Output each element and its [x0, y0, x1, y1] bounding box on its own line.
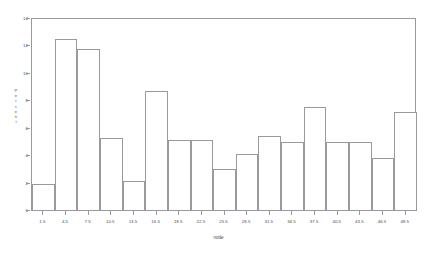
- plot-area: [31, 18, 416, 211]
- x-axis-tick-mark: [269, 211, 270, 215]
- x-axis-tick-label: 25.5: [219, 219, 228, 224]
- y-axis-tick-mark: [26, 210, 30, 211]
- y-axis-tick-mark: [26, 100, 30, 101]
- bar: [168, 140, 191, 211]
- bar: [55, 39, 78, 211]
- bar: [304, 107, 327, 211]
- x-axis-tick-mark: [405, 211, 406, 215]
- x-axis-tick-label: 43.5: [355, 219, 364, 224]
- bar: [236, 154, 259, 211]
- bar: [281, 142, 304, 211]
- x-axis-tick-mark: [156, 211, 157, 215]
- x-axis-tick-mark: [337, 211, 338, 215]
- y-axis-tick-labels: 02468101214: [14, 0, 28, 254]
- y-axis-tick-mark: [26, 155, 30, 156]
- x-axis-tick-label: 49.5: [400, 219, 409, 224]
- x-axis-tick-label: 16.5: [151, 219, 160, 224]
- x-axis-tick-label: 1.5: [39, 219, 45, 224]
- x-axis-tick-label: 19.5: [174, 219, 183, 224]
- x-axis-tick-mark: [201, 211, 202, 215]
- x-axis-tick-mark: [88, 211, 89, 215]
- x-axis-tick-mark: [359, 211, 360, 215]
- histogram-chart: Percent 02468101214 1.54.57.510.513.516.…: [0, 0, 437, 254]
- bar: [123, 181, 146, 211]
- bar: [349, 142, 372, 211]
- y-axis-tick-mark: [26, 128, 30, 129]
- x-axis-tick-mark: [178, 211, 179, 215]
- bar: [145, 91, 168, 211]
- x-axis-tick-mark: [133, 211, 134, 215]
- x-axis-tick-mark: [246, 211, 247, 215]
- x-axis-tick-label: 4.5: [62, 219, 68, 224]
- bar: [100, 138, 123, 211]
- x-axis-tick-label: 46.5: [378, 219, 387, 224]
- x-axis-tick-mark: [42, 211, 43, 215]
- bar: [394, 112, 417, 211]
- bar: [326, 142, 349, 211]
- x-axis-tick-mark: [382, 211, 383, 215]
- bar: [191, 140, 214, 211]
- bar: [258, 136, 281, 211]
- x-axis-tick-label: 10.5: [106, 219, 115, 224]
- x-axis-title: node: [0, 235, 437, 240]
- y-axis-tick-mark: [26, 73, 30, 74]
- x-axis-tick-label: 40.5: [332, 219, 341, 224]
- x-axis-tick-mark: [291, 211, 292, 215]
- x-axis-tick-mark: [65, 211, 66, 215]
- bar: [213, 169, 236, 212]
- x-axis-tick-mark: [110, 211, 111, 215]
- y-axis-tick-mark: [26, 45, 30, 46]
- bars-container: [32, 19, 415, 211]
- x-axis-tick-mark: [224, 211, 225, 215]
- x-axis-tick-label: 13.5: [129, 219, 138, 224]
- x-axis-tick-label: 7.5: [85, 219, 91, 224]
- x-axis-tick-label: 31.5: [265, 219, 274, 224]
- x-axis-tick-label: 37.5: [310, 219, 319, 224]
- x-axis-tick-label: 34.5: [287, 219, 296, 224]
- y-axis-tick-mark: [26, 18, 30, 19]
- bar: [32, 184, 55, 211]
- x-axis-tick-label: 22.5: [197, 219, 206, 224]
- x-axis-tick-mark: [314, 211, 315, 215]
- y-axis-tick-mark: [26, 183, 30, 184]
- bar: [372, 158, 395, 211]
- x-axis-tick-label: 28.5: [242, 219, 251, 224]
- bar: [77, 49, 100, 212]
